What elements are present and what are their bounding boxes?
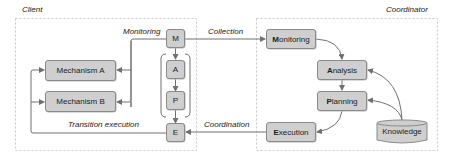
ap-bracket-right xyxy=(185,54,190,117)
transition-execution-label: Transition execution xyxy=(68,120,139,129)
monitoring-initial: M xyxy=(272,35,279,44)
diagram-canvas xyxy=(0,0,451,165)
planning-rest: lanning xyxy=(332,97,358,106)
client-m-node: M xyxy=(166,29,185,48)
coordinator-execution-node: Execution xyxy=(266,122,316,142)
mechanism-a-node: Mechanism A xyxy=(45,60,116,81)
client-p-label: P xyxy=(173,96,178,105)
monitoring-rest: onitoring xyxy=(279,35,310,44)
mechanism-b-node: Mechanism B xyxy=(45,91,116,112)
coordinator-planning-node: Planning xyxy=(317,91,367,111)
client-a-node: A xyxy=(166,60,185,79)
coordinator-title: Coordinator xyxy=(386,5,428,14)
mechanism-b-label: Mechanism B xyxy=(56,97,104,106)
client-e-label: E xyxy=(173,128,178,137)
knowledge-label: Knowledge xyxy=(377,127,427,136)
client-title: Client xyxy=(22,5,42,14)
coordinator-analysis-node: Analysis xyxy=(317,60,367,80)
analysis-rest: nalysis xyxy=(333,66,357,75)
coordination-edge-label: Coordination xyxy=(204,120,249,129)
client-p-node: P xyxy=(166,91,185,110)
collection-edge-label: Collection xyxy=(208,27,243,36)
monitoring-edge-label: Monitoring xyxy=(123,27,160,36)
execution-rest: xecution xyxy=(279,128,309,137)
client-e-node: E xyxy=(166,123,185,142)
client-a-label: A xyxy=(173,65,178,74)
client-m-label: M xyxy=(172,34,179,43)
mechanism-a-label: Mechanism A xyxy=(56,66,104,75)
coordinator-monitoring-node: Monitoring xyxy=(266,29,316,49)
